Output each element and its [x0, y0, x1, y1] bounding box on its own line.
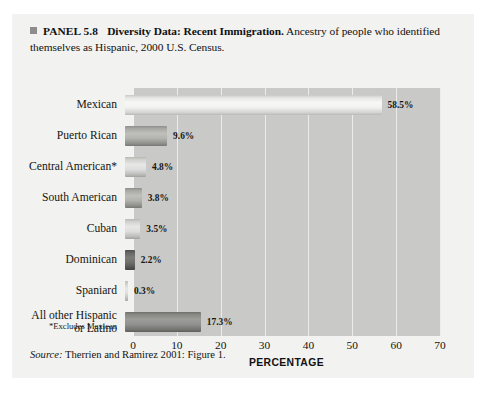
panel-headline: Diversity Data: Recent Immigration.: [107, 25, 284, 37]
bar-zone: 17.3%: [125, 306, 466, 337]
square-bullet-icon: [30, 27, 37, 34]
bar-row: Cuban3.5%: [12, 213, 474, 244]
category-label: Mexican: [12, 98, 125, 111]
bar-row: Dominican2.2%: [12, 244, 474, 275]
bar-zone: 58.5%: [125, 89, 466, 120]
bar-zone: 3.8%: [125, 182, 466, 213]
bar-value-label: 58.5%: [388, 100, 414, 110]
bar[interactable]: [125, 95, 382, 115]
bar-zone: 0.3%: [125, 275, 466, 306]
bar-rows: Mexican58.5%Puerto Rican9.6%Central Amer…: [12, 88, 474, 336]
bar-value-label: 3.8%: [148, 193, 169, 203]
bar-value-label: 4.8%: [152, 162, 173, 172]
bar-zone: 4.8%: [125, 151, 466, 182]
bar-row: Mexican58.5%: [12, 89, 474, 120]
bar-zone: 9.6%: [125, 120, 466, 151]
panel-number: PANEL 5.8: [43, 25, 98, 37]
bar[interactable]: [125, 250, 135, 270]
category-label: Central American*: [12, 160, 125, 173]
bar-value-label: 0.3%: [134, 286, 155, 296]
x-tick-label-30: 30: [259, 339, 270, 351]
bar-row: Puerto Rican9.6%: [12, 120, 474, 151]
source-text: Therrien and Ramirez 2001: Figure 1.: [63, 349, 226, 360]
bar[interactable]: [125, 312, 201, 332]
bar[interactable]: [125, 281, 128, 301]
bar-zone: 3.5%: [125, 213, 466, 244]
panel-container: PANEL 5.8Diversity Data: Recent Immigrat…: [12, 14, 474, 378]
bar-row: South American3.8%: [12, 182, 474, 213]
bar-value-label: 9.6%: [173, 131, 194, 141]
chart-figure: Mexican58.5%Puerto Rican9.6%Central Amer…: [12, 74, 474, 324]
category-label: Cuban: [12, 222, 125, 235]
source-line: Source: Therrien and Ramirez 2001: Figur…: [30, 349, 226, 360]
x-tick-label-70: 70: [434, 339, 445, 351]
bar-value-label: 2.2%: [141, 255, 162, 265]
x-tick-label-50: 50: [347, 339, 358, 351]
category-label: Dominican: [12, 253, 125, 266]
bar-value-label: 3.5%: [146, 224, 167, 234]
category-label: South American: [12, 191, 125, 204]
panel-caption: PANEL 5.8Diversity Data: Recent Immigrat…: [30, 24, 454, 55]
bar[interactable]: [125, 188, 142, 208]
chart-footnote: *Excludes Mexican: [12, 321, 125, 331]
bar[interactable]: [125, 126, 167, 146]
bar-row: Central American*4.8%: [12, 151, 474, 182]
bar[interactable]: [125, 219, 140, 239]
bar[interactable]: [125, 157, 146, 177]
category-label: Puerto Rican: [12, 129, 125, 142]
category-label: Spaniard: [12, 284, 125, 297]
source-label: Source:: [30, 349, 63, 360]
bar-value-label: 17.3%: [207, 317, 233, 327]
bar-zone: 2.2%: [125, 244, 466, 275]
x-tick-label-60: 60: [390, 339, 401, 351]
x-tick-label-40: 40: [303, 339, 314, 351]
bar-row: Spaniard0.3%: [12, 275, 474, 306]
